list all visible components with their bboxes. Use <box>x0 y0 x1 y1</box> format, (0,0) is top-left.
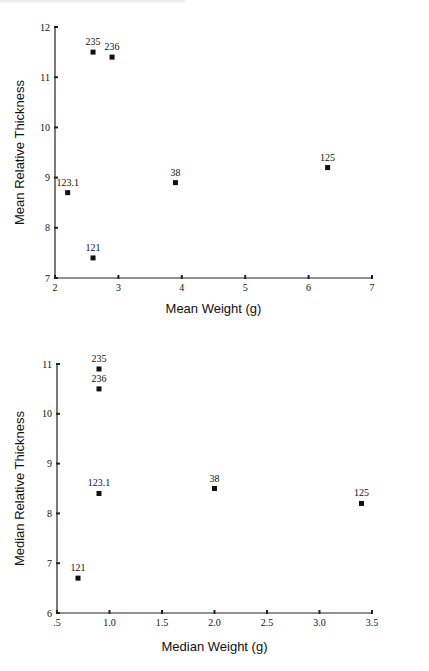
x-tick-label: 2 <box>53 282 58 293</box>
point-label: 236 <box>105 41 120 52</box>
y-tick-label: 9 <box>47 458 52 469</box>
point-label: 38 <box>210 473 220 484</box>
x-tick-label: 1.0 <box>103 617 116 628</box>
y-tick-label: 11 <box>40 72 50 83</box>
y-tick-label: 8 <box>47 508 52 519</box>
data-point <box>91 50 96 55</box>
chart-mean-weight-vs-thickness: 789101112234567235236123.138125121Mean W… <box>12 22 375 317</box>
y-tick-label: 10 <box>42 408 52 419</box>
point-label: 235 <box>92 353 107 364</box>
x-tick-label: 3.5 <box>366 617 379 628</box>
data-point <box>97 366 102 371</box>
data-point <box>65 190 70 195</box>
data-point <box>110 55 115 60</box>
point-label: 125 <box>320 152 335 163</box>
x-tick-label: 2.0 <box>208 617 221 628</box>
x-tick-label: 7 <box>370 282 375 293</box>
data-point <box>212 486 217 491</box>
y-tick-label: 7 <box>45 273 50 284</box>
data-point <box>76 576 81 581</box>
data-point <box>97 491 102 496</box>
y-tick-label: 8 <box>45 222 50 233</box>
point-label: 121 <box>86 242 101 253</box>
y-tick-label: 10 <box>40 122 50 133</box>
scatter-charts: 789101112234567235236123.138125121Mean W… <box>0 0 429 671</box>
x-tick-label: 1.5 <box>156 617 169 628</box>
y-tick-label: 9 <box>45 172 50 183</box>
x-tick-label: 6 <box>306 282 311 293</box>
point-label: 38 <box>170 167 180 178</box>
x-tick-label: 5 <box>243 282 248 293</box>
y-axis-title: Mean Relative Thickness <box>12 80 27 225</box>
x-tick-label: .5 <box>53 617 61 628</box>
x-tick-label: 3.0 <box>313 617 326 628</box>
data-point <box>97 386 102 391</box>
data-point <box>325 165 330 170</box>
x-axis-title: Median Weight (g) <box>162 639 268 654</box>
data-point <box>359 501 364 506</box>
point-label: 236 <box>92 373 107 384</box>
y-tick-label: 6 <box>47 608 52 619</box>
data-point <box>173 180 178 185</box>
x-tick-label: 4 <box>179 282 184 293</box>
y-tick-label: 7 <box>47 558 52 569</box>
x-axis-title: Mean Weight (g) <box>166 301 262 316</box>
y-axis-title: Median Relative Thickness <box>12 410 27 566</box>
point-label: 235 <box>86 36 101 47</box>
y-tick-label: 11 <box>42 359 52 370</box>
point-label: 125 <box>354 487 369 498</box>
x-tick-label: 2.5 <box>261 617 274 628</box>
y-tick-label: 12 <box>40 22 50 33</box>
data-point <box>91 255 96 260</box>
chart-median-weight-vs-thickness: 67891011.51.01.52.02.53.03.5235236123.13… <box>12 353 378 654</box>
point-label: 123.1 <box>88 477 111 488</box>
x-tick-label: 3 <box>116 282 121 293</box>
point-label: 121 <box>71 562 86 573</box>
point-label: 123.1 <box>56 177 79 188</box>
